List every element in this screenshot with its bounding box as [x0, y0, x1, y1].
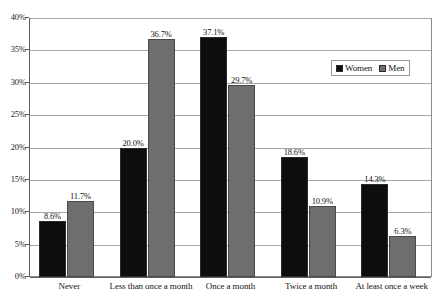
gridline: [30, 277, 431, 278]
y-axis-tick-label: 35%: [0, 45, 26, 54]
bar-women: 8.6%: [39, 221, 66, 277]
y-axis-tick-label: 25%: [0, 110, 26, 119]
bar-value-label: 37.1%: [203, 27, 224, 37]
legend-label: Women: [345, 63, 372, 73]
bar-men: 6.3%: [389, 236, 416, 277]
x-axis-category-label: Never: [29, 281, 110, 292]
chart-legend: WomenMen: [331, 60, 410, 76]
x-axis-category-label: Twice a month: [271, 281, 352, 292]
bar-value-label: 20.0%: [122, 138, 143, 148]
legend-label: Men: [388, 63, 404, 73]
bar-value-label: 18.6%: [284, 147, 305, 157]
bar-value-label: 6.3%: [394, 226, 411, 236]
bar-men: 36.7%: [148, 39, 175, 277]
x-axis-category-label: Once a month: [190, 281, 271, 292]
y-axis-tick-label: 0%: [0, 272, 26, 281]
x-axis-category-label: At least once a week: [351, 281, 432, 292]
x-axis-labels: NeverLess than once a monthOnce a monthT…: [29, 281, 432, 299]
bar-value-label: 8.6%: [44, 211, 61, 221]
bar-group: 37.1%29.7%: [190, 18, 271, 277]
legend-entry: Men: [379, 63, 404, 73]
bar-value-label: 14.3%: [364, 174, 385, 184]
bar-men: 29.7%: [228, 85, 255, 277]
y-axis-tick-label: 5%: [0, 240, 26, 249]
bar-value-label: 29.7%: [231, 75, 252, 85]
bar-group: 18.6%10.9%: [271, 18, 352, 277]
bar-value-label: 11.7%: [70, 191, 91, 201]
bar-women: 20.0%: [120, 148, 147, 278]
bar-group: 8.6%11.7%: [29, 18, 110, 277]
x-axis-category-label: Less than once a month: [110, 281, 191, 292]
y-axis-tick-label: 10%: [0, 207, 26, 216]
bar-men: 11.7%: [67, 201, 94, 277]
bar-women: 37.1%: [200, 37, 227, 277]
bars-layer: 8.6%11.7%20.0%36.7%37.1%29.7%18.6%10.9%1…: [29, 18, 432, 277]
bar-men: 10.9%: [309, 206, 336, 277]
y-axis-tick-label: 20%: [0, 143, 26, 152]
bar-chart: 0%5%10%15%20%25%30%35%40% 8.6%11.7%20.0%…: [0, 0, 440, 303]
y-axis-tick-label: 40%: [0, 13, 26, 22]
bar-value-label: 36.7%: [150, 29, 171, 39]
bar-group: 20.0%36.7%: [110, 18, 191, 277]
bar-women: 14.3%: [361, 184, 388, 277]
legend-swatch-icon: [379, 65, 386, 72]
legend-swatch-icon: [336, 65, 343, 72]
bar-women: 18.6%: [281, 157, 308, 277]
bar-group: 14.3%6.3%: [351, 18, 432, 277]
legend-entry: Women: [336, 63, 372, 73]
y-axis-tick-label: 15%: [0, 175, 26, 184]
y-axis-tick-label: 30%: [0, 78, 26, 87]
bar-value-label: 10.9%: [312, 196, 333, 206]
